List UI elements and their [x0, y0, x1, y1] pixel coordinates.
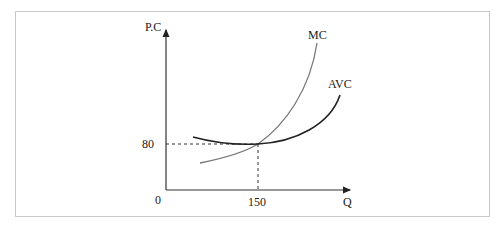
avc-label: AVC: [328, 77, 352, 91]
y-axis-label: P.C: [145, 20, 161, 34]
x-axis-label: Q: [343, 195, 352, 209]
mc-label: MC: [308, 28, 327, 42]
x-tick-150: 150: [248, 195, 266, 209]
y-tick-80: 80: [142, 137, 154, 151]
origin-label: 0: [155, 193, 161, 207]
cost-curves-chart: P.C Q 0 80 150 MC AVC: [0, 0, 501, 232]
